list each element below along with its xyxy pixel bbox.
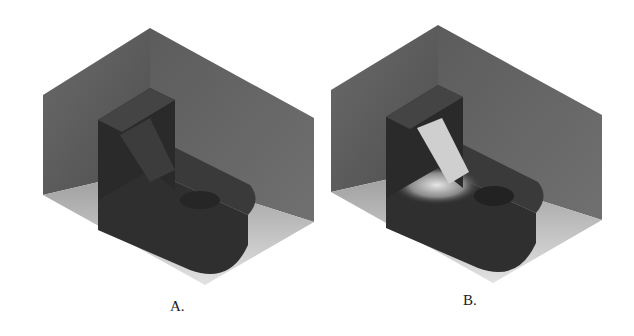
panel-label-a: A.	[170, 298, 185, 315]
panel-label-b: B.	[463, 292, 477, 309]
figure-panel-b: B.	[317, 0, 634, 336]
figure-panel-a: A.	[0, 0, 317, 336]
bracket-render-b	[317, 0, 634, 336]
bracket-render-a	[0, 0, 317, 336]
